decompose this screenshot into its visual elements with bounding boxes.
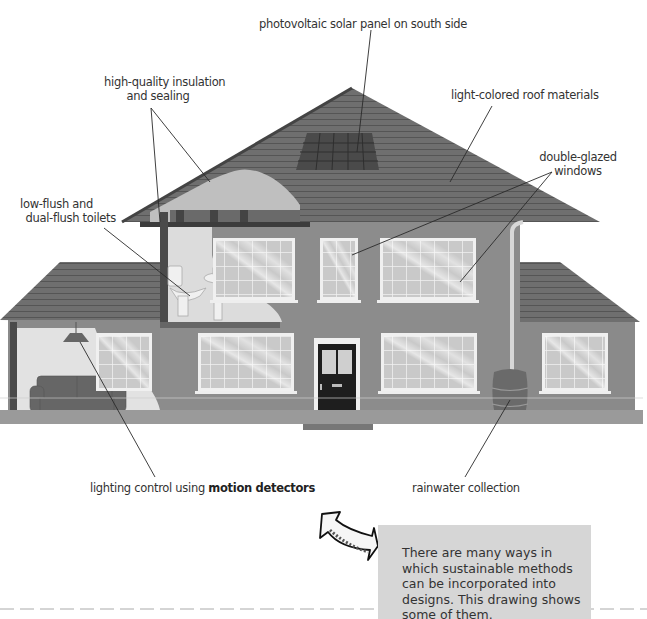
label-double-glazed: double-glazed windows [538,150,618,178]
label-rainwater: rainwater collection [412,481,520,495]
label-glazing-line2: windows [538,164,618,178]
label-lighting-bold: motion detectors [208,481,315,495]
ground-strip [0,410,643,424]
solar-panel [296,133,379,170]
window-upper-right [377,238,479,303]
window-upper-left [210,238,298,303]
window-lower-left [195,333,297,394]
label-toilets-line2: dual-flush toilets [20,211,116,225]
label-glazing-line1: double-glazed [538,150,618,164]
label-roof: light-colored roof materials [451,88,599,102]
caption-text: There are many ways in which sustainable… [402,545,587,619]
label-insulation-line1: high-quality insulation [104,75,212,89]
brick-column [160,212,168,322]
window-lower-far-right [539,333,611,394]
window-upper-middle [317,238,361,303]
label-insulation: high-quality insulation and sealing [104,75,212,103]
label-solar-panel: photovoltaic solar panel on south side [259,17,467,31]
label-lighting-prefix: lighting control using [90,481,208,495]
curved-arrow-icon [320,512,378,560]
label-lighting-control: lighting control using motion detectors [90,481,315,495]
right-wing-roof [515,262,640,322]
label-toilets-line1: low-flush and [20,197,116,211]
label-insulation-line2: and sealing [104,89,212,103]
window-lower-living [96,333,152,391]
window-lower-right [378,333,480,394]
front-door [314,338,360,418]
label-toilets: low-flush and dual-flush toilets [20,197,116,225]
